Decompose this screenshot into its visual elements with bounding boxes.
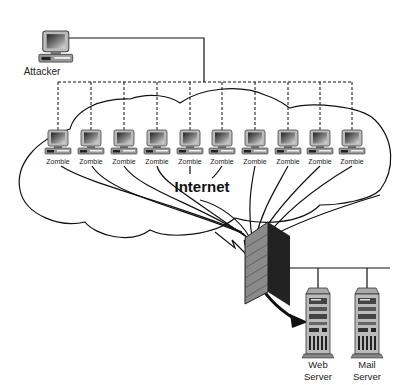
web-server-label: Web Server xyxy=(298,359,338,383)
zombie-label: Zombie xyxy=(305,158,335,165)
arrow-head-icon xyxy=(290,314,308,328)
zombie-label: Zombie xyxy=(142,158,172,165)
mail-server-icon xyxy=(351,288,383,358)
zombie-label: Zombie xyxy=(76,158,106,165)
attacker-link xyxy=(57,38,204,82)
mail-server-label: Mail Server xyxy=(347,359,387,383)
zombie-label: Zombie xyxy=(207,158,237,165)
zombie-computers xyxy=(45,130,365,154)
web-server-icon xyxy=(302,288,334,358)
lan-lines xyxy=(290,268,390,288)
mail-server-label-line2: Server xyxy=(347,371,387,383)
zombie-label: Zombie xyxy=(175,158,205,165)
zombie-label: Zombie xyxy=(273,158,303,165)
zombie-label: Zombie xyxy=(43,158,73,165)
attacker-computer-icon xyxy=(39,31,73,62)
zombie-label: Zombie xyxy=(240,158,270,165)
attacker-label: Attacker xyxy=(22,66,62,77)
zombie-label: Zombie xyxy=(109,158,139,165)
internet-label: Internet xyxy=(172,178,232,195)
mail-server-label-line1: Mail xyxy=(347,359,387,371)
zombie-label: Zombie xyxy=(337,158,367,165)
ddos-diagram: Attacker Internet Zombie Zombie Zombie Z… xyxy=(0,0,409,385)
web-server-label-line1: Web xyxy=(298,359,338,371)
web-server-label-line2: Server xyxy=(298,371,338,383)
control-lines xyxy=(58,82,352,130)
